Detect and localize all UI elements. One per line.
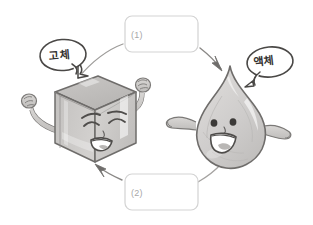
speech-bubble-solid-label: 고체	[48, 45, 70, 63]
speech-bubble-liquid-label: 액체	[252, 51, 274, 69]
ice-cube-character	[22, 76, 151, 162]
drop-left-arm	[166, 117, 196, 130]
answer-box-2-label: (2)	[131, 188, 143, 198]
worksheet-diagram: (1) (2) 고체 액체	[0, 0, 313, 225]
answer-box-1-label: (1)	[131, 30, 143, 40]
cube-left-arm	[22, 94, 59, 133]
diagram-artwork	[0, 0, 313, 225]
drop-right-arm	[263, 125, 291, 139]
water-drop-character	[166, 66, 290, 168]
